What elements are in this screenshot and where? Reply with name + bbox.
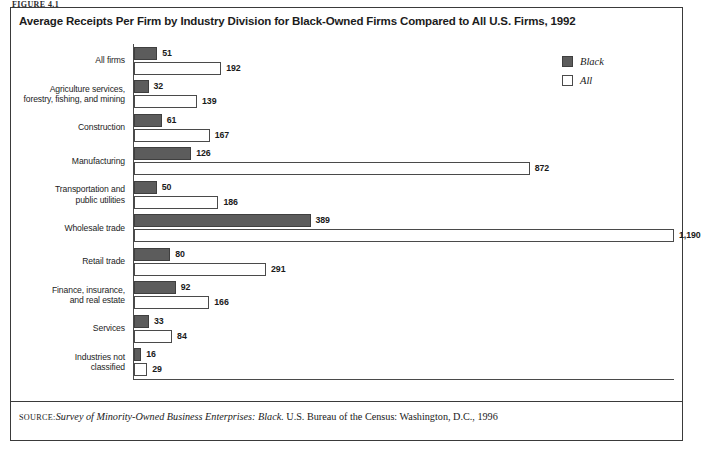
bar-value-label: 186 <box>223 197 237 207</box>
bar-group: Finance, insurance,and real estate92166 <box>19 279 674 313</box>
bar-row-black: 51 <box>134 47 217 60</box>
legend-label-all: All <box>580 75 592 86</box>
bar-group: Manufacturing126872 <box>19 145 674 179</box>
bar-all <box>134 363 147 376</box>
bar-group: Industries notclassified1629 <box>19 346 674 380</box>
category-label: Construction <box>21 122 125 133</box>
category-label: Agriculture services,forestry, fishing, … <box>21 84 125 105</box>
category-label: Manufacturing <box>21 156 125 167</box>
plot-area: All firms51192Agriculture services,fores… <box>19 44 674 389</box>
bar-value-label: 50 <box>162 182 172 192</box>
legend-swatch-black-icon <box>562 56 573 67</box>
bar-black <box>134 315 149 328</box>
bar-row-all: 166 <box>134 296 269 309</box>
bar-value-label: 51 <box>162 48 172 58</box>
bar-value-label: 29 <box>152 364 162 374</box>
category-label-line: All firms <box>21 55 125 66</box>
category-label-line: and real estate <box>21 295 125 306</box>
bar-row-all: 29 <box>134 363 207 376</box>
bar-black <box>134 348 141 361</box>
bar-value-label: 389 <box>316 215 330 225</box>
bar-row-black: 33 <box>134 315 209 328</box>
category-label-line: public utilities <box>21 195 125 206</box>
category-label: Industries notclassified <box>21 352 125 373</box>
source-publisher: U.S. Bureau of the Census: Washington, D… <box>284 411 498 422</box>
bar-row-all: 167 <box>134 129 270 142</box>
legend-item-black: Black <box>562 54 604 69</box>
bar-row-black: 16 <box>134 348 201 361</box>
bar-value-label: 166 <box>214 297 228 307</box>
bar-row-black: 61 <box>134 114 222 127</box>
bar-group: Wholesale trade3891,190 <box>19 212 674 246</box>
bar-value-label: 1,190 <box>679 230 701 240</box>
category-label: Transportation andpublic utilities <box>21 184 125 205</box>
category-label-line: Manufacturing <box>21 156 125 167</box>
bar-value-label: 92 <box>181 282 191 292</box>
bar-value-label: 192 <box>226 63 240 73</box>
bar-black <box>134 181 157 194</box>
bar-black <box>134 248 170 261</box>
bar-group: Services3384 <box>19 312 674 346</box>
bar-all <box>134 330 172 343</box>
bar-all <box>134 129 210 142</box>
category-label-line: Retail trade <box>21 256 125 267</box>
bar-group: Retail trade80291 <box>19 245 674 279</box>
x-axis-baseline <box>133 379 674 380</box>
category-label-line: Transportation and <box>21 184 125 195</box>
bar-row-all: 1,190 <box>134 229 705 242</box>
bar-all <box>134 95 197 108</box>
category-label-line: Finance, insurance, <box>21 285 125 296</box>
bar-value-label: 32 <box>154 81 164 91</box>
category-label-line: classified <box>21 362 125 373</box>
bar-row-black: 92 <box>134 281 236 294</box>
bar-all <box>134 62 221 75</box>
bar-group-list: All firms51192Agriculture services,fores… <box>19 44 674 379</box>
legend-swatch-all-icon <box>562 75 573 86</box>
bar-row-black: 32 <box>134 80 209 93</box>
bar-group: Transportation andpublic utilities50186 <box>19 178 674 212</box>
bar-value-label: 61 <box>167 115 177 125</box>
bar-value-label: 84 <box>177 331 187 341</box>
bar-value-label: 16 <box>146 349 156 359</box>
category-label: All firms <box>21 55 125 66</box>
bar-row-black: 126 <box>134 147 251 160</box>
bar-all <box>134 196 218 209</box>
category-label-line: Construction <box>21 122 125 133</box>
category-label: Retail trade <box>21 256 125 267</box>
bar-value-label: 33 <box>154 316 164 326</box>
source-divider <box>11 401 682 402</box>
bar-row-all: 291 <box>134 263 326 276</box>
bar-value-label: 80 <box>175 249 185 259</box>
chart-title: Average Receipts Per Firm by Industry Di… <box>19 15 659 27</box>
bar-row-black: 80 <box>134 248 230 261</box>
bar-group: Construction61167 <box>19 111 674 145</box>
bar-value-label: 872 <box>535 163 549 173</box>
category-label: Finance, insurance,and real estate <box>21 285 125 306</box>
bar-black <box>134 147 191 160</box>
bar-value-label: 126 <box>196 148 210 158</box>
bar-row-black: 389 <box>134 214 371 227</box>
bar-black <box>134 281 176 294</box>
bar-all <box>134 229 674 242</box>
bar-all <box>134 296 209 309</box>
category-label-line: forestry, fishing, and mining <box>21 94 125 105</box>
bar-row-all: 872 <box>134 162 590 175</box>
category-label-line: Industries not <box>21 352 125 363</box>
bar-black <box>134 47 157 60</box>
chart-legend: Black All <box>562 54 604 92</box>
legend-item-all: All <box>562 73 604 88</box>
bar-black <box>134 80 149 93</box>
bar-row-all: 84 <box>134 330 232 343</box>
category-label-line: Services <box>21 323 125 334</box>
bar-all <box>134 263 266 276</box>
bar-all <box>134 162 530 175</box>
bar-black <box>134 114 162 127</box>
category-label: Services <box>21 323 125 334</box>
source-keyword: SOURCE: <box>19 413 56 422</box>
source-title: Survey of Minority-Owned Business Enterp… <box>56 411 284 422</box>
category-label-line: Agriculture services, <box>21 84 125 95</box>
bar-value-label: 167 <box>215 130 229 140</box>
bar-row-all: 139 <box>134 95 257 108</box>
bar-value-label: 139 <box>202 96 216 106</box>
